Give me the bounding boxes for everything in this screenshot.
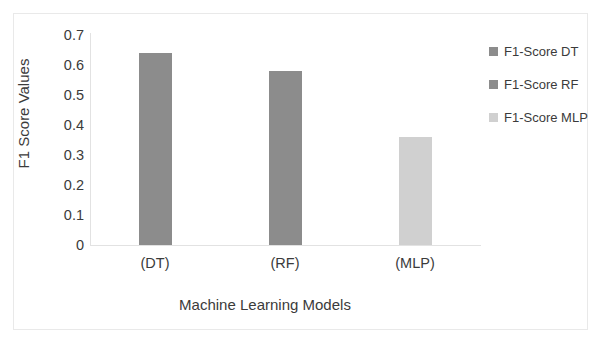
plot-area	[90, 35, 480, 245]
legend-label: F1-Score MLP	[504, 110, 588, 125]
legend-item: F1-Score RF	[489, 71, 594, 98]
legend-swatch-icon	[489, 113, 498, 122]
legend-item: F1-Score DT	[489, 38, 594, 65]
legend-item: F1-Score MLP	[489, 104, 594, 131]
x-axis-line	[90, 245, 481, 246]
legend-label: F1-Score RF	[504, 77, 578, 92]
y-axis-tick-labels: 0.70.60.50.40.30.20.10	[38, 0, 84, 344]
x-tick-label: (DT)	[141, 255, 170, 271]
y-tick-label: 0	[40, 238, 84, 253]
chart-figure: 0.70.60.50.40.30.20.10 F1 Score Values M…	[0, 0, 601, 344]
y-tick-label: 0.7	[40, 28, 84, 43]
bar	[269, 71, 302, 245]
y-tick-label: 0.2	[40, 178, 84, 193]
x-tick-label: (MLP)	[395, 255, 434, 271]
x-tick-label: (RF)	[271, 255, 300, 271]
y-tick-label: 0.1	[40, 208, 84, 223]
y-tick-label: 0.6	[40, 58, 84, 73]
legend-swatch-icon	[489, 80, 498, 89]
legend-label: F1-Score DT	[504, 44, 578, 59]
bar	[399, 137, 432, 245]
y-axis-title: F1 Score Values	[15, 44, 32, 184]
chart-legend: F1-Score DTF1-Score RFF1-Score MLP	[489, 38, 594, 137]
y-tick-label: 0.3	[40, 148, 84, 163]
y-tick-label: 0.5	[40, 88, 84, 103]
bar	[139, 53, 172, 245]
y-tick-label: 0.4	[40, 118, 84, 133]
x-axis-title: Machine Learning Models	[0, 296, 530, 313]
legend-swatch-icon	[489, 47, 498, 56]
